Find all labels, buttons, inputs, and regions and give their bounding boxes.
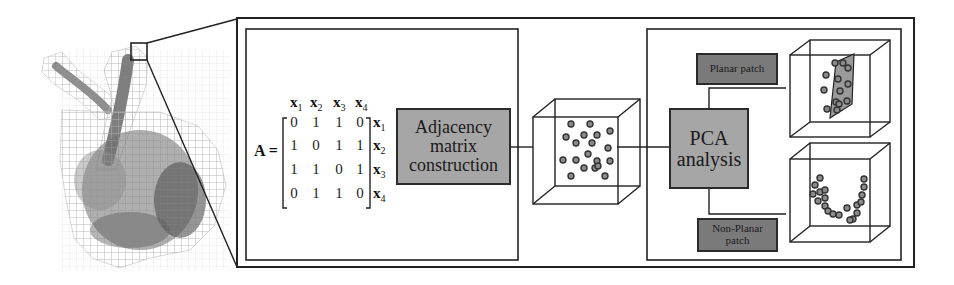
data-point bbox=[824, 106, 830, 112]
matrix-row-label: x4 bbox=[373, 185, 386, 204]
data-point bbox=[594, 132, 600, 138]
matrix-cell: 0 bbox=[309, 137, 323, 154]
data-point bbox=[602, 173, 608, 179]
data-point bbox=[581, 132, 587, 138]
data-point bbox=[595, 163, 601, 169]
data-point bbox=[821, 87, 827, 93]
data-point bbox=[560, 157, 566, 163]
matrix-cell: 0 bbox=[353, 114, 367, 131]
data-point bbox=[589, 140, 595, 146]
data-point bbox=[823, 72, 829, 78]
nonplanar-patch-box: Non-Planar patch bbox=[697, 218, 778, 252]
data-point bbox=[836, 101, 842, 107]
adjacency-label-line1: Adjacency bbox=[415, 118, 492, 137]
matrix-row-label: x1 bbox=[373, 114, 386, 133]
data-point bbox=[835, 76, 841, 82]
data-point bbox=[845, 65, 851, 71]
matrix-cell: 1 bbox=[332, 114, 346, 131]
data-point bbox=[861, 176, 867, 182]
data-point bbox=[844, 205, 850, 211]
data-point bbox=[607, 158, 613, 164]
matrix-cell: 1 bbox=[332, 137, 346, 154]
nonplanar-label-line2: patch bbox=[726, 235, 750, 247]
data-point bbox=[573, 140, 579, 146]
figure-canvas: A = x1 x2 x3 x4 0 1 1 0 1 0 1 1 1 1 0 1 … bbox=[0, 0, 954, 285]
matrix-row-label: x2 bbox=[373, 137, 386, 156]
data-point bbox=[817, 175, 823, 181]
planar-patch-label: Planar patch bbox=[710, 63, 765, 75]
matrix-lhs: A = bbox=[254, 142, 278, 160]
matrix-cell: 1 bbox=[309, 114, 323, 131]
matrix-cell: 1 bbox=[309, 161, 323, 178]
data-point bbox=[810, 191, 816, 197]
matrix-cell: 1 bbox=[309, 185, 323, 202]
data-point bbox=[840, 60, 846, 66]
planar-patch-box: Planar patch bbox=[696, 53, 778, 85]
matrix-col-label: x4 bbox=[355, 94, 368, 113]
data-point bbox=[822, 195, 828, 201]
data-point bbox=[563, 134, 569, 140]
data-point bbox=[568, 173, 574, 179]
data-point bbox=[587, 121, 593, 127]
data-point bbox=[815, 198, 821, 204]
matrix-cell: 0 bbox=[353, 185, 367, 202]
data-point bbox=[834, 107, 840, 113]
matrix-cell: 1 bbox=[353, 137, 367, 154]
matrix-cell: 1 bbox=[287, 137, 301, 154]
data-point bbox=[832, 60, 838, 66]
data-point bbox=[858, 199, 864, 205]
matrix-col-label: x2 bbox=[310, 94, 323, 113]
data-point bbox=[605, 145, 611, 151]
data-point bbox=[837, 88, 843, 94]
voxel-bunny-illustration bbox=[42, 46, 230, 270]
matrix-cell: 1 bbox=[332, 185, 346, 202]
matrix-cell: 0 bbox=[287, 114, 301, 131]
matrix-row-label: x3 bbox=[373, 161, 386, 180]
data-point bbox=[568, 121, 574, 127]
scatter-points-nonplanar bbox=[810, 175, 867, 223]
pca-analysis-box: PCA analysis bbox=[669, 108, 749, 189]
data-point bbox=[607, 128, 613, 134]
adjacency-label-line3: construction bbox=[409, 156, 498, 175]
pca-label-line1: PCA bbox=[690, 128, 729, 149]
data-point bbox=[845, 81, 851, 87]
data-point bbox=[854, 210, 860, 216]
data-point bbox=[585, 151, 591, 157]
matrix-col-label: x1 bbox=[290, 94, 303, 113]
data-point bbox=[847, 217, 853, 223]
data-point bbox=[836, 212, 842, 218]
data-point bbox=[861, 184, 867, 190]
data-point bbox=[581, 165, 587, 171]
matrix-cell: 1 bbox=[287, 161, 301, 178]
nonplanar-patch-cube bbox=[790, 143, 890, 242]
matrix-cell: 0 bbox=[332, 161, 346, 178]
data-point bbox=[830, 211, 836, 217]
scatter-points-cube bbox=[560, 121, 613, 179]
adjacency-label-line2: matrix bbox=[430, 137, 477, 156]
data-point bbox=[822, 187, 828, 193]
zoom-line-top bbox=[147, 19, 237, 43]
matrix-col-label: x3 bbox=[333, 94, 346, 113]
data-point bbox=[573, 157, 579, 163]
adjacency-matrix-construction-box: Adjacency matrix construction bbox=[396, 108, 511, 185]
data-point bbox=[844, 98, 850, 104]
data-point bbox=[859, 192, 865, 198]
pca-label-line2: analysis bbox=[677, 149, 741, 170]
matrix-cell: 1 bbox=[353, 161, 367, 178]
data-point bbox=[812, 182, 818, 188]
matrix-cell: 0 bbox=[287, 185, 301, 202]
